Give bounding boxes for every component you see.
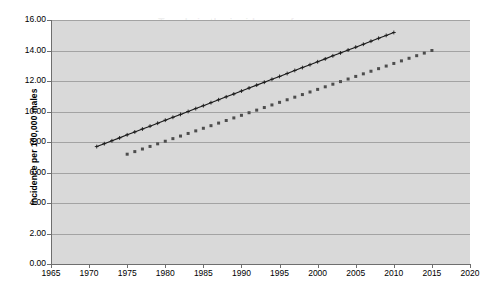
gridline-horizontal bbox=[51, 81, 470, 82]
gridline-horizontal bbox=[51, 203, 470, 204]
y-axis-tick-label: 0.00 bbox=[2, 259, 46, 268]
y-axis-tick-label: 4.00 bbox=[2, 198, 46, 207]
x-axis-tick-mark bbox=[318, 264, 319, 268]
x-axis-tick-label: 2020 bbox=[450, 268, 490, 278]
y-axis-tick-label: 16.00 bbox=[2, 15, 46, 24]
x-axis-tick-label: 2005 bbox=[336, 268, 376, 278]
y-axis-tick-mark bbox=[47, 20, 51, 21]
gridline-horizontal bbox=[51, 112, 470, 113]
x-axis-tick-label: 1995 bbox=[260, 268, 300, 278]
x-axis-tick-mark bbox=[241, 264, 242, 268]
x-axis-tick-label: 1980 bbox=[145, 268, 185, 278]
x-axis-tick-mark bbox=[394, 264, 395, 268]
x-axis-tick-mark bbox=[280, 264, 281, 268]
y-axis-tick-mark bbox=[47, 203, 51, 204]
y-axis-tick-mark bbox=[47, 142, 51, 143]
y-axis-tick-label: 10.00 bbox=[2, 107, 46, 116]
x-axis-tick-mark bbox=[89, 264, 90, 268]
gridline-horizontal bbox=[51, 173, 470, 174]
y-axis-tick-label: 12.00 bbox=[2, 76, 46, 85]
y-axis-tick-label: 8.00 bbox=[2, 137, 46, 146]
x-axis-tick-label: 1970 bbox=[69, 268, 109, 278]
x-axis-tick-mark bbox=[203, 264, 204, 268]
line-chart-figure: Trends in the incidence of cancer over y… bbox=[0, 0, 498, 288]
x-axis-tick-label: 1990 bbox=[221, 268, 261, 278]
gridline-horizontal bbox=[51, 234, 470, 235]
x-axis-tick-mark bbox=[470, 264, 471, 268]
y-axis-line bbox=[51, 20, 52, 265]
x-axis-tick-mark bbox=[165, 264, 166, 268]
x-axis-tick-label: 1965 bbox=[31, 268, 71, 278]
y-axis-tick-mark bbox=[47, 112, 51, 113]
y-axis-tick-mark bbox=[47, 81, 51, 82]
y-axis-tick-mark bbox=[47, 51, 51, 52]
y-axis-tick-label: 6.00 bbox=[2, 168, 46, 177]
y-axis-tick-label: 2.00 bbox=[2, 229, 46, 238]
gridline-horizontal bbox=[51, 51, 470, 52]
x-axis-tick-label: 1975 bbox=[107, 268, 147, 278]
x-axis-tick-label: 1985 bbox=[183, 268, 223, 278]
x-axis-tick-mark bbox=[51, 264, 52, 268]
x-axis-tick-mark bbox=[127, 264, 128, 268]
x-axis-tick-mark bbox=[432, 264, 433, 268]
plot-area bbox=[51, 20, 470, 264]
x-axis-tick-label: 2000 bbox=[298, 268, 338, 278]
x-axis-line bbox=[51, 264, 471, 265]
y-axis-tick-label: 14.00 bbox=[2, 46, 46, 55]
y-axis-tick-labels: 0.002.004.006.008.0010.0012.0014.0016.00 bbox=[0, 0, 46, 288]
x-axis-tick-mark bbox=[356, 264, 357, 268]
gridline-horizontal bbox=[51, 20, 470, 21]
gridline-horizontal bbox=[51, 142, 470, 143]
y-axis-tick-mark bbox=[47, 234, 51, 235]
x-axis-tick-label: 2015 bbox=[412, 268, 452, 278]
y-axis-tick-mark bbox=[47, 173, 51, 174]
x-axis-tick-label: 2010 bbox=[374, 268, 414, 278]
